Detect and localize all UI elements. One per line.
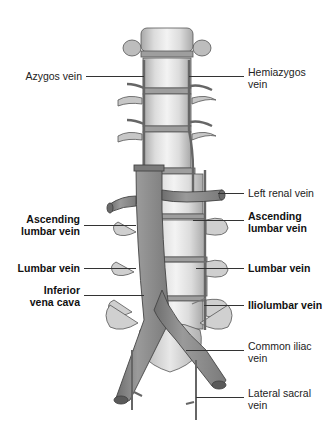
label-lumbar-right: Lumbar vein [248, 262, 310, 274]
label-lumbar-left: Lumbar vein [2, 262, 80, 274]
leader-ivc [84, 295, 144, 296]
leader-azygos [86, 76, 144, 77]
leader-ascending-lumbar-right [193, 220, 244, 221]
leader-iliolumbar [204, 305, 244, 306]
label-ascending-lumbar-left: Ascending lumbar vein [2, 213, 80, 237]
label-left-renal: Left renal vein [248, 187, 314, 199]
label-common-iliac: Common iliac vein [248, 340, 312, 364]
leader-hemiazygos [189, 76, 244, 77]
leader-lumbar-right [196, 268, 244, 269]
leader-left-renal [218, 193, 244, 194]
label-azygos: Azygos vein [2, 70, 82, 82]
label-ivc: Inferior vena cava [2, 284, 80, 308]
label-iliolumbar: Iliolumbar vein [248, 299, 322, 311]
leader-ascending-lumbar-left [84, 225, 136, 226]
label-hemiazygos: Hemiazygos vein [248, 66, 306, 90]
label-ascending-lumbar-right: Ascending lumbar vein [248, 210, 307, 234]
leader-common-iliac [186, 350, 244, 351]
leader-lumbar-left [84, 268, 136, 269]
leader-lateral-sacral [196, 397, 244, 398]
label-lateral-sacral: Lateral sacral vein [248, 387, 311, 411]
